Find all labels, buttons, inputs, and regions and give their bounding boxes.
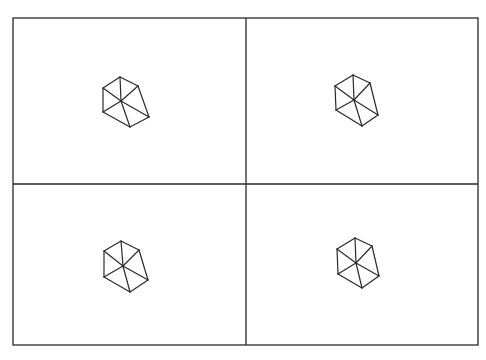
cube-edge [338, 274, 362, 288]
cube-edge [121, 241, 139, 250]
cube-edge [104, 251, 123, 266]
cube-edge [120, 77, 121, 101]
cube-edge [130, 117, 149, 127]
cube-edge [130, 280, 148, 292]
cube-edge [104, 241, 121, 251]
cube-edge [103, 101, 121, 112]
cube-edge [355, 238, 372, 246]
cube-edge [337, 249, 356, 263]
cube-wireframe-icon [337, 238, 379, 288]
cube-edge [353, 75, 370, 83]
cube-edge [356, 263, 379, 276]
cube-edge [362, 115, 378, 126]
cube-wireframe-icon [103, 77, 149, 127]
cube-edge [138, 86, 149, 117]
panel-top-right [335, 75, 378, 126]
cube-edge [356, 263, 362, 288]
cube-edge [121, 86, 138, 101]
panel-bottom-left [104, 241, 148, 292]
cube-wireframe-icon [335, 75, 378, 126]
cube-edge [354, 83, 370, 100]
cube-edge [335, 86, 354, 100]
cube-edge [335, 75, 353, 86]
cube-edge [356, 246, 372, 263]
cube-edge [353, 75, 354, 100]
panel-top-left [103, 77, 149, 127]
four-panel-cube-diagram [0, 0, 486, 360]
cube-edge [123, 250, 139, 266]
cube-edge [103, 88, 121, 101]
cube-edge [337, 249, 338, 274]
cube-edge [336, 100, 354, 110]
cube-edge [355, 238, 356, 263]
cube-edge [337, 238, 355, 249]
cube-edge [372, 246, 379, 276]
cube-edge [103, 77, 120, 88]
figure-canvas [0, 0, 486, 360]
cube-edge [362, 276, 379, 288]
cube-edge [335, 86, 336, 110]
cube-edge [120, 77, 138, 86]
cube-wireframe-icon [104, 241, 148, 292]
panel-bottom-right [337, 238, 379, 288]
cube-edge [338, 263, 356, 274]
cube-edge [104, 266, 123, 277]
cube-edge [121, 241, 123, 266]
